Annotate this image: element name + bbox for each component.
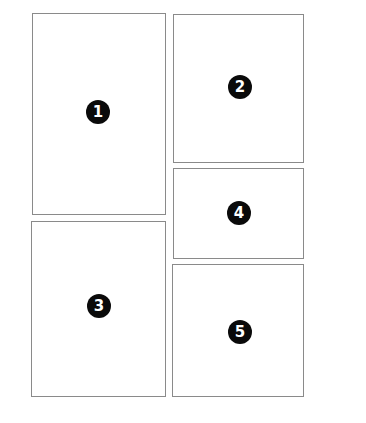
number-badge-4: 4 xyxy=(227,201,251,225)
panel-4: 4 xyxy=(173,168,304,259)
number-badge-2: 2 xyxy=(228,75,252,99)
number-badge-1: 1 xyxy=(86,100,110,124)
number-badge-5: 5 xyxy=(228,320,252,344)
panel-5: 5 xyxy=(172,264,304,397)
panel-2: 2 xyxy=(173,14,304,163)
panel-3: 3 xyxy=(31,221,166,397)
number-badge-3: 3 xyxy=(87,294,111,318)
panel-1: 1 xyxy=(32,13,166,215)
